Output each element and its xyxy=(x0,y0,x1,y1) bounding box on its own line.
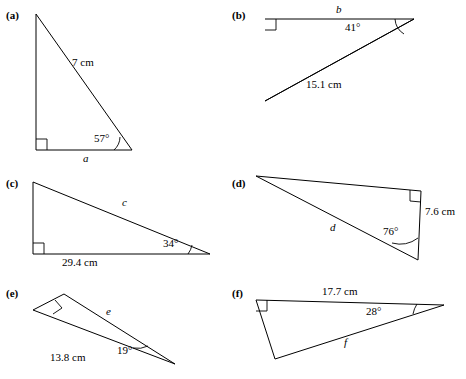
right-angle-marker-e xyxy=(53,300,62,314)
side-label-b-b: b xyxy=(336,4,342,15)
triangle-d-svg xyxy=(232,170,466,280)
side-label-d-7-6cm: 7.6 cm xyxy=(425,206,455,217)
triangle-f-hypotenuse xyxy=(256,300,275,359)
side-label-c-29-4cm: 29.4 cm xyxy=(62,257,97,268)
side-label-f-17-7cm: 17.7 cm xyxy=(322,286,357,297)
side-label-e-e: e xyxy=(106,306,111,317)
angle-arc-f xyxy=(413,304,417,314)
angle-label-b-41: 41° xyxy=(345,22,360,33)
angle-arc-e xyxy=(133,346,148,348)
triangle-d xyxy=(232,170,466,280)
angle-arc-d xyxy=(392,238,418,244)
side-label-a-a: a xyxy=(83,153,89,164)
side-label-a-7cm: 7 cm xyxy=(72,57,94,68)
side-label-b-15-1cm: 15.1 cm xyxy=(306,79,341,90)
angle-label-f-28: 28° xyxy=(366,306,381,317)
angle-label-d-76: 76° xyxy=(383,226,398,237)
triangle-a xyxy=(0,0,170,165)
triangle-a-hypotenuse xyxy=(36,14,132,150)
right-angle-marker-d xyxy=(410,190,421,202)
triangle-e-svg xyxy=(0,280,230,379)
triangle-c-svg xyxy=(0,170,230,280)
right-angle-marker-a xyxy=(36,139,47,150)
angle-arc-a xyxy=(114,137,120,150)
side-label-c-c: c xyxy=(122,197,127,208)
triangle-c-hypotenuse xyxy=(33,182,210,254)
worksheet-page: (a) 7 cm 57° a (b) b 41° 15.1 cm (c) c 3 xyxy=(0,0,466,379)
angle-label-c-34: 34° xyxy=(163,238,178,249)
triangle-a-svg xyxy=(0,0,170,165)
side-label-e-13-8cm: 13.8 cm xyxy=(50,352,85,363)
right-angle-marker-c xyxy=(33,243,44,254)
angle-label-a-57: 57° xyxy=(94,133,109,144)
triangle-e xyxy=(0,280,230,379)
triangle-f-legs xyxy=(256,300,444,359)
angle-label-e-19: 19° xyxy=(117,345,132,356)
side-label-d-d: d xyxy=(330,222,336,233)
triangle-c xyxy=(0,170,230,280)
right-angle-marker-b xyxy=(265,19,276,30)
side-label-f-f: f xyxy=(344,337,347,348)
